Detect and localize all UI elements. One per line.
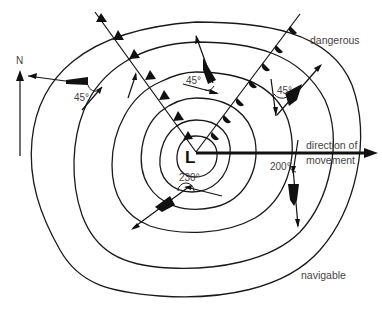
navigable-label: navigable [301, 269, 346, 281]
dangerous-label: dangerous [310, 34, 360, 46]
weather-diagram: direction of movement L N 45° 45° [0, 0, 382, 312]
angle-upper-left: 45° [74, 92, 89, 103]
north-label: N [16, 55, 23, 66]
direction-label: direction of [306, 139, 357, 151]
angle-upper-center: 45° [186, 75, 201, 86]
isobar-1 [177, 136, 217, 177]
low-pressure-label: L [185, 148, 195, 167]
warm-front [196, 14, 300, 152]
angle-upper-right: 45° [277, 85, 292, 96]
cold-front [95, 12, 196, 152]
angle-lower-center: 230° [179, 172, 200, 183]
angle-lower-right: 200° [270, 161, 291, 172]
movement-label: movement [306, 154, 355, 166]
ship-upper-left [28, 73, 102, 110]
wind-arrow-left [128, 72, 137, 98]
north-arrow [16, 70, 24, 156]
